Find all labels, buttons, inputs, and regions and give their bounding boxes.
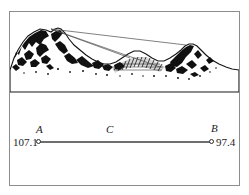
baseline-panel	[10, 93, 239, 186]
figure-container: A C B 107.1 97.4	[0, 0, 249, 195]
station-label-a: A	[36, 124, 43, 135]
station-value-a: 107.1	[13, 137, 38, 148]
station-label-b: B	[211, 123, 218, 134]
sight-line-upper	[51, 29, 186, 45]
ridge-shading-left	[12, 30, 78, 71]
ridge-shading-right	[165, 45, 214, 77]
station-value-b: 97.4	[216, 137, 235, 148]
station-marker-b	[209, 139, 214, 144]
mountain-profile-drawing	[10, 12, 239, 92]
mountain-profile-panel	[10, 12, 239, 92]
baseline-segment	[38, 141, 212, 143]
segment-label-c: C	[106, 124, 113, 135]
